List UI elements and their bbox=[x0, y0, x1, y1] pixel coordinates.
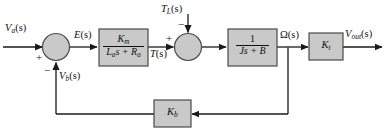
diagram-vector-layer bbox=[0, 0, 386, 134]
back-emf-signal-label: Vb(s) bbox=[59, 71, 80, 82]
kb-block-label: Kb bbox=[154, 106, 191, 119]
sum2-minus-sign: − bbox=[178, 19, 184, 30]
sum2-plus-sign: + bbox=[166, 33, 172, 44]
load-torque-signal-label: TL(s) bbox=[161, 4, 182, 15]
input-signal-label: Va(s) bbox=[5, 23, 26, 34]
torque-signal-label: T(s) bbox=[150, 49, 167, 60]
armature-block-label: Km Las + Ra bbox=[99, 34, 148, 59]
block-diagram-canvas: Va(s) E(s) T(s) TL(s) Ω(s) Vout(s) Vb(s)… bbox=[0, 0, 386, 134]
output-signal-label: Vout(s) bbox=[345, 29, 372, 40]
kt-block-label: Kt bbox=[309, 39, 343, 52]
inertia-block-label: 1 Js + B bbox=[228, 34, 277, 57]
sum1-plus-sign: + bbox=[36, 52, 42, 63]
speed-signal-label: Ω(s) bbox=[280, 30, 299, 41]
torque-summing-junction bbox=[175, 34, 202, 61]
sum1-minus-sign: − bbox=[44, 65, 50, 76]
input-summing-junction bbox=[43, 34, 70, 61]
error-signal-label: E(s) bbox=[74, 30, 92, 41]
